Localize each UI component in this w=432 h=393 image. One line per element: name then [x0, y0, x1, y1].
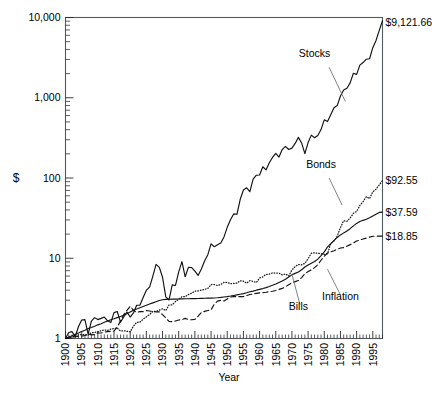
- x-tick-label: 1950: [221, 343, 233, 367]
- y-tick-label: 10,000: [28, 11, 60, 23]
- x-tick-label: 1990: [350, 343, 362, 367]
- leader-line-stocks: [329, 67, 345, 101]
- y-tick-label: 1,000: [34, 91, 60, 103]
- x-tick-label: 1945: [205, 343, 217, 367]
- x-tick-label: 1910: [92, 343, 104, 367]
- x-tick-label: 1965: [270, 343, 282, 367]
- y-axis-title: $: [13, 171, 20, 185]
- y-tick-label: 1: [55, 332, 61, 344]
- inflation-end-value: $18.85: [386, 230, 418, 242]
- x-tick-label: 1935: [173, 343, 185, 367]
- x-tick-label: 1960: [253, 343, 265, 367]
- bills-label: Bills: [289, 300, 308, 312]
- x-tick-label: 1995: [367, 343, 379, 367]
- x-tick-label: 1975: [302, 343, 314, 367]
- stocks-end-value: $9,121.66: [386, 16, 432, 28]
- x-tick-label: 1915: [108, 343, 120, 367]
- x-tick-label: 1970: [286, 343, 298, 367]
- x-tick-label: 1955: [237, 343, 249, 367]
- bonds-end-value: $92.55: [386, 174, 418, 186]
- y-tick-label: 10: [49, 252, 61, 264]
- series-line-inflation: [66, 236, 383, 338]
- x-tick-label: 1925: [140, 343, 152, 367]
- x-tick-label: 1940: [189, 343, 201, 367]
- leader-line-bonds: [329, 178, 342, 205]
- x-tick-label: 1920: [124, 343, 136, 367]
- x-tick-label: 1900: [59, 343, 71, 367]
- series-line-bills: [66, 212, 383, 338]
- x-tick-label: 1980: [318, 343, 330, 367]
- inflation-label: Inflation: [322, 290, 359, 302]
- chart-svg: 1101001,00010,000$1900190519101915192019…: [0, 0, 432, 393]
- x-axis-title: Year: [218, 371, 240, 383]
- stocks-label: Stocks: [299, 47, 331, 59]
- y-tick-label: 100: [43, 172, 61, 184]
- x-tick-label: 1985: [334, 343, 346, 367]
- x-tick-label: 1930: [156, 343, 168, 367]
- bonds-label: Bonds: [306, 158, 336, 170]
- bills-end-value: $37.59: [386, 206, 418, 218]
- x-tick-label: 1905: [75, 343, 87, 367]
- chart-figure: 1101001,00010,000$1900190519101915192019…: [0, 0, 432, 393]
